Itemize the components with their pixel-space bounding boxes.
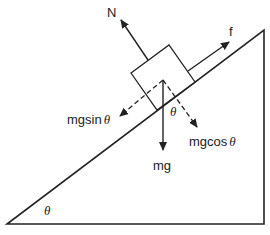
friction-force-label: f [229,24,233,39]
weight-label: mg [153,158,171,173]
normal-force-arrow [121,20,148,60]
free-body-diagram: N f mg mgsinθ mgcosθ θ θ [0,0,270,235]
perpendicular-component-label: mgcosθ [189,134,236,149]
angle-label-incline: θ [44,203,51,218]
normal-force-label: N [107,5,116,20]
inclined-plane [7,30,264,224]
angle-label-block: θ [170,104,177,119]
parallel-component-label: mgsinθ [67,112,111,127]
friction-force-arrow [188,42,229,71]
